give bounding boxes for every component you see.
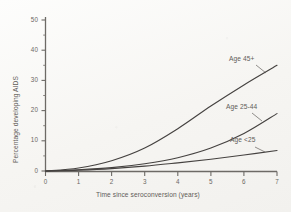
chart-figure: 50 40 30 20 10 0 0 1 2 3 4 5 6 7 Percent… — [0, 0, 291, 212]
x-tick-label: 0 — [40, 179, 52, 185]
series-label-age-45-plus: Age 45+ — [229, 56, 254, 63]
x-tick-label: 3 — [139, 179, 151, 185]
x-tick-label: 6 — [238, 179, 250, 185]
x-tick-label: 5 — [205, 179, 217, 185]
series-label-age-under-25: Age <25 — [230, 137, 255, 144]
x-tick-label: 7 — [271, 179, 283, 185]
x-axis-title: Time since seroconversion (years) — [96, 192, 200, 199]
y-tick-label: 30 — [22, 77, 38, 83]
y-tick-label: 20 — [22, 107, 38, 113]
x-major-ticks — [46, 172, 278, 177]
x-tick-label: 2 — [106, 179, 118, 185]
x-tick-label: 1 — [73, 179, 85, 185]
x-tick-label: 4 — [172, 179, 184, 185]
y-axis-title: Percentage developing AIDS — [13, 76, 20, 163]
y-tick-label: 40 — [22, 47, 38, 53]
series-label-age-25-44: Age 25-44 — [226, 104, 257, 111]
y-tick-label: 10 — [22, 137, 38, 143]
y-tick-label: 50 — [22, 17, 38, 23]
y-tick-label: 0 — [22, 168, 38, 174]
